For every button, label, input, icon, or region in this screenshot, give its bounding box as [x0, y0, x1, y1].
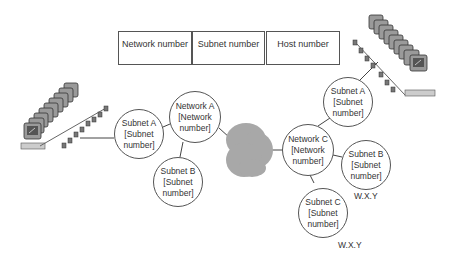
node-title: Subnet A	[331, 86, 366, 97]
node-label: [Subnet	[308, 208, 337, 219]
node-label: [Network	[291, 145, 325, 156]
subnet-b-address: W.X.Y	[354, 191, 378, 201]
subnet-number-label: Subnet number	[198, 39, 260, 49]
right-subnet-c-node: Subnet C [Subnet number]	[298, 188, 348, 238]
node-label: number]	[179, 123, 210, 134]
network-number-label: Network number	[122, 39, 188, 49]
node-label: [Subnet	[124, 129, 153, 140]
node-title: Subnet B	[161, 166, 196, 177]
node-label: number]	[292, 156, 323, 167]
node-label: [Subnet	[351, 160, 380, 171]
network-c-node: Network C [Network number]	[282, 124, 334, 176]
subnet-c-address: W.X.Y	[338, 240, 362, 250]
node-title: Network A	[176, 101, 215, 112]
node-title: Subnet A	[122, 118, 157, 129]
right-subnet-a-node: Subnet A [Subnet number]	[323, 77, 373, 127]
node-label: number]	[307, 219, 338, 230]
right-subnet-b-node: Subnet B [Subnet number]	[341, 140, 391, 190]
node-label: number]	[162, 188, 193, 199]
computer-row-icon	[21, 83, 108, 149]
node-title: Subnet B	[349, 149, 384, 160]
network-number-field: Network number	[118, 31, 192, 65]
subnet-number-field: Subnet number	[192, 31, 265, 65]
node-title: Network C	[288, 134, 328, 145]
host-number-label: Host number	[277, 39, 329, 49]
left-subnet-a-node: Subnet A [Subnet number]	[114, 109, 164, 159]
node-label: number]	[350, 171, 381, 182]
node-title: Subnet C	[305, 197, 340, 208]
network-a-node: Network A [Network number]	[169, 91, 221, 143]
node-label: [Subnet	[333, 97, 362, 108]
host-number-field: Host number	[266, 31, 340, 65]
node-label: [Network	[178, 112, 212, 123]
internet-cloud-icon	[226, 123, 273, 177]
node-label: number]	[332, 108, 363, 119]
left-subnet-b-node: Subnet B [Subnet number]	[153, 157, 203, 207]
node-label: [Subnet	[163, 177, 192, 188]
node-label: number]	[123, 140, 154, 151]
